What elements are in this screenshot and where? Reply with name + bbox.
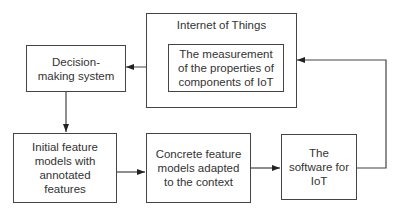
node-initial-label: Initial feature models with annotated fe… [14,140,116,196]
node-measurement-label: The measurement of the properties of com… [169,47,283,89]
node-concrete: Concrete feature models adapted to the c… [146,133,251,203]
node-concrete-label: Concrete feature models adapted to the c… [147,147,250,189]
node-initial: Initial feature models with annotated fe… [13,133,117,203]
node-software: The software for IoT [281,134,357,200]
node-software-label: The software for IoT [282,146,356,188]
node-measurement: The measurement of the properties of com… [168,44,284,92]
node-decision: Decision-making system [26,45,126,92]
iot-container-title: Internet of Things [147,19,296,31]
node-decision-label: Decision-making system [27,55,125,83]
